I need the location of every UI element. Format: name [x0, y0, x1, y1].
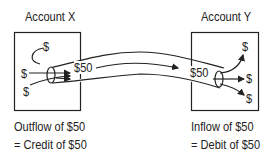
account-x-caption-2: = Credit of $50 — [14, 138, 87, 151]
account-x-title: Account X — [25, 10, 75, 23]
account-x-caption-1: Outflow of $50 — [14, 120, 85, 133]
dollar-y-1: $ — [242, 40, 248, 53]
dollar-x-3: $ — [23, 85, 29, 98]
account-y-caption-2: = Debit of $50 — [191, 138, 260, 151]
account-y-caption-1: Inflow of $50 — [191, 120, 254, 133]
dollar-y-2: $ — [246, 72, 252, 85]
dollar-x-1: $ — [43, 40, 49, 53]
flow-amount-x: $50 — [74, 61, 92, 74]
account-y-title: Account Y — [201, 10, 251, 23]
dollar-y-3: $ — [246, 92, 252, 105]
pipe-opening-x — [47, 67, 55, 83]
flow-amount-y: $50 — [190, 66, 208, 79]
flow-line — [96, 64, 178, 69]
dollar-x-2: $ — [21, 67, 27, 80]
